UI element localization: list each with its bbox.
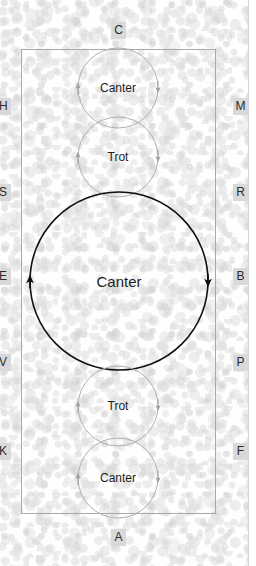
marker-e: E	[0, 268, 11, 285]
marker-h: H	[0, 98, 11, 115]
page-gutter	[248, 0, 256, 566]
marker-p: P	[233, 354, 248, 371]
page-divider-rule	[248, 0, 249, 566]
dressage-arena-diagram: CanterTrotCanterTrotCanter CAHSEVKMRBPF	[0, 0, 256, 566]
marker-m: M	[233, 98, 248, 115]
circle-canter-center-label: Canter	[96, 273, 141, 290]
circle-canter-top-label: Canter	[100, 81, 136, 95]
circle-canter-bottom-label: Canter	[100, 471, 136, 485]
marker-f: F	[233, 443, 248, 460]
marker-c: C	[111, 22, 126, 39]
marker-a: A	[111, 529, 126, 546]
marker-k: K	[0, 443, 11, 460]
marker-s: S	[0, 184, 11, 201]
circle-trot-upper-label: Trot	[108, 150, 129, 164]
marker-r: R	[233, 184, 248, 201]
marker-v: V	[0, 354, 11, 371]
circle-trot-lower-label: Trot	[108, 399, 129, 413]
marker-b: B	[233, 268, 248, 285]
